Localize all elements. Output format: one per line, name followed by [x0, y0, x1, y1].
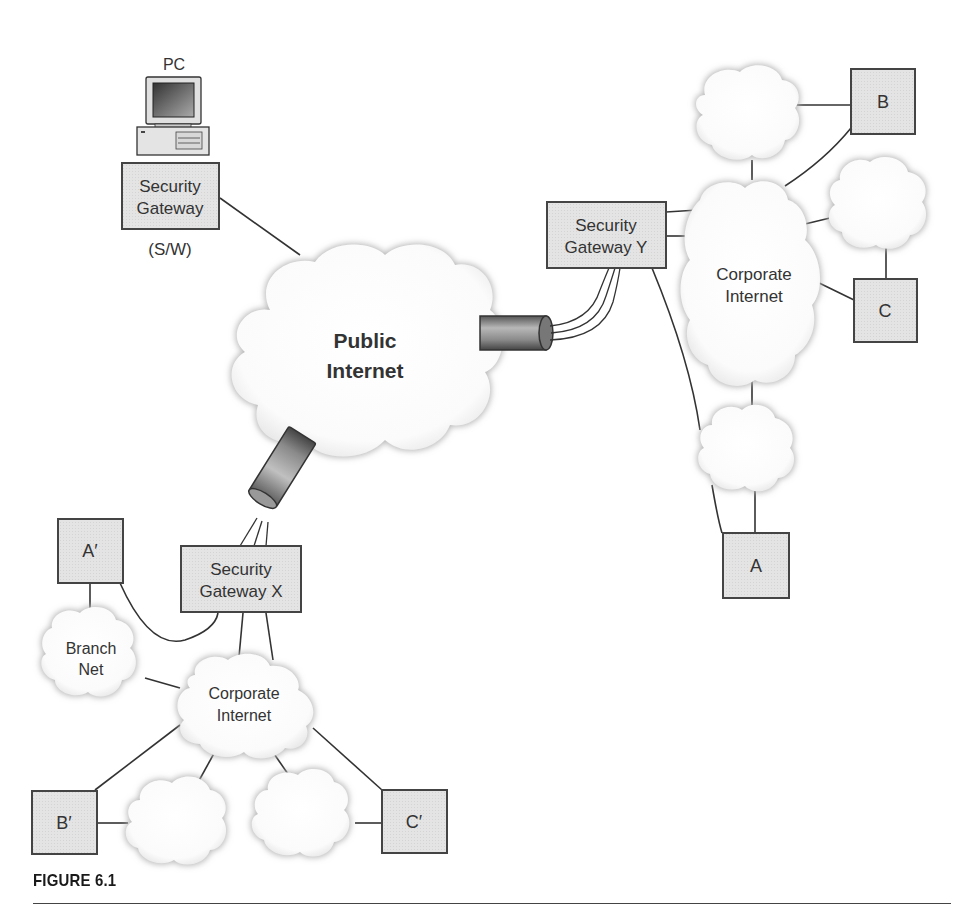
- node-b-label: B: [877, 92, 889, 112]
- security-gateway-y-box: [547, 202, 666, 268]
- pc-label: PC: [163, 56, 185, 73]
- gateway-y-label-1: Security: [575, 216, 637, 235]
- cloud-bottom-left: [126, 776, 226, 864]
- corporate-left-label-1: Corporate: [208, 685, 279, 702]
- security-gateway-x-box: [181, 546, 301, 612]
- branch-net-label-2: Net: [79, 661, 104, 678]
- branch-net-label-1: Branch: [66, 640, 117, 657]
- gateway-x-label-2: Gateway X: [199, 582, 282, 601]
- cloud-top-right: [696, 65, 799, 159]
- node-b-prime-label: B′: [56, 813, 72, 833]
- gateway-y-label-2: Gateway Y: [565, 238, 648, 257]
- public-internet-label-2: Internet: [326, 359, 403, 382]
- node-a-label: A: [750, 556, 762, 576]
- gateway-x-label-1: Security: [210, 560, 272, 579]
- cloud-bottom-center: [252, 769, 350, 856]
- figure-caption: FIGURE 6.1: [33, 871, 116, 891]
- node-a-prime-label: A′: [82, 541, 98, 561]
- vpn-network-diagram: Public Internet Corporate Internet Branc…: [0, 0, 964, 917]
- caption-divider: [33, 903, 951, 904]
- public-internet-label-1: Public: [333, 329, 396, 352]
- pc-gateway-label-2: Gateway: [136, 199, 204, 218]
- vpn-tunnel-left: [240, 426, 316, 546]
- corporate-left-label-2: Internet: [217, 707, 272, 724]
- vpn-tunnel-right: [480, 268, 620, 350]
- pc-security-gateway-box: [122, 163, 219, 229]
- node-c-prime-label: C′: [406, 812, 423, 832]
- pc-gateway-note: (S/W): [148, 240, 191, 259]
- cloud-above-a: [698, 405, 794, 492]
- node-c-label: C: [879, 301, 892, 321]
- pc-computer-icon: [137, 77, 209, 155]
- corporate-right-label-2: Internet: [725, 287, 783, 306]
- pc-gateway-label-1: Security: [139, 177, 201, 196]
- cloud-right-small: [829, 157, 926, 249]
- corporate-right-label-1: Corporate: [716, 265, 792, 284]
